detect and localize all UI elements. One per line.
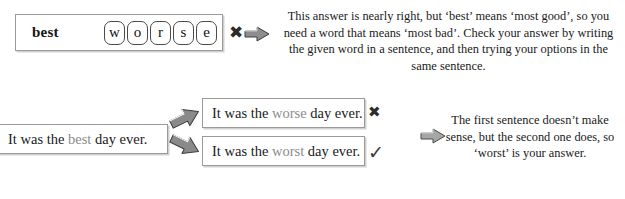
cross-mark-icon: ✖	[229, 24, 243, 41]
option-sentence-before: It was the	[212, 143, 272, 159]
source-sentence-after: day ever.	[91, 131, 147, 147]
given-word-label: best	[32, 24, 59, 41]
option-sentence-before: It was the	[212, 105, 272, 121]
letter-tile-group: w o r s e	[104, 21, 217, 45]
check-mark-icon: ✓	[368, 143, 384, 162]
top-explanation-text: This answer is nearly right, but ‘best’ …	[276, 8, 621, 74]
letter-tile: e	[196, 21, 217, 45]
source-sentence-highlight: best	[68, 131, 91, 147]
option-sentence-after: day ever.	[304, 143, 360, 159]
given-answer-box: best w o r s e	[15, 14, 223, 51]
bottom-explanation-text: The first sentence doesn’t make sense, b…	[437, 112, 623, 162]
source-sentence-text: It was the best day ever.	[8, 131, 147, 148]
option-sentence-box-2: It was the worst day ever.	[202, 136, 365, 166]
option-sentence-box-1: It was the worse day ever.	[202, 98, 365, 128]
option-sentence-text: It was the worst day ever.	[212, 143, 360, 160]
letter-tile: o	[127, 21, 148, 45]
branch-arrow-down-icon	[168, 133, 202, 161]
letter-tile: r	[150, 21, 171, 45]
source-sentence-box: It was the best day ever.	[0, 124, 168, 154]
worksheet-canvas: best w o r s e ✖ This answer is nearly r…	[0, 0, 625, 199]
option-sentence-after: day ever.	[307, 105, 363, 121]
letter-tile: w	[104, 21, 125, 45]
option-sentence-highlight: worst	[272, 143, 304, 159]
source-sentence-before: It was the	[8, 131, 68, 147]
cross-mark-icon: ✖	[368, 105, 381, 120]
option-sentence-text: It was the worse day ever.	[212, 105, 363, 122]
right-arrow-icon	[244, 26, 270, 46]
branch-arrow-up-icon	[168, 106, 202, 134]
letter-tile: s	[173, 21, 194, 45]
option-sentence-highlight: worse	[272, 105, 307, 121]
